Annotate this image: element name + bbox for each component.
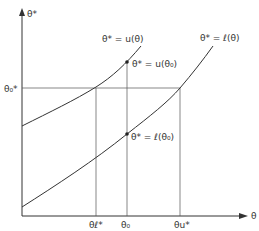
x-axis-label: θ	[251, 211, 257, 221]
upper-curve	[22, 46, 141, 126]
point-u-theta0-marker	[125, 60, 129, 64]
x-tick-theta-u-star: θu*	[174, 220, 190, 230]
x-tick-theta-l-star: θℓ*	[89, 220, 103, 230]
y-tick-theta0-star: θ₀*	[4, 84, 18, 94]
confidence-belt-diagram: θ* θ θ* = u(θ) θ* = ℓ(θ) θ* = u(θ₀) θ* =…	[0, 0, 259, 231]
point-u-theta0-label: θ* = u(θ₀)	[132, 59, 177, 69]
x-tick-theta0: θ₀	[121, 220, 131, 230]
point-l-theta0-marker	[125, 132, 129, 136]
point-l-theta0-label: θ* = ℓ(θ₀)	[131, 132, 174, 142]
lower-curve-label: θ* = ℓ(θ)	[200, 33, 240, 43]
upper-curve-label: θ* = u(θ)	[102, 34, 144, 44]
x-axis-arrow-icon	[239, 213, 248, 219]
y-axis-label: θ*	[27, 9, 38, 19]
y-axis-arrow-icon	[19, 8, 25, 16]
